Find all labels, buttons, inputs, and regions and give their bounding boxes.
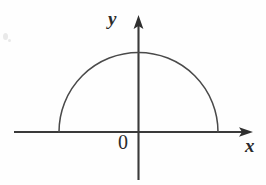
graph-svg (0, 0, 266, 185)
figure-canvas: y x 0 (0, 0, 266, 185)
x-axis-label: x (245, 136, 255, 155)
y-axis-label: y (108, 9, 116, 28)
origin-label: 0 (118, 132, 128, 152)
